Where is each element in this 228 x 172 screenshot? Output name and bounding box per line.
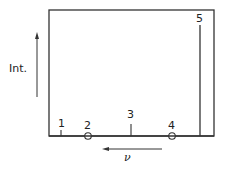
line-label-3: 3 <box>127 108 134 121</box>
frequency-arrow-icon <box>102 147 162 151</box>
x-axis-label: ν <box>124 151 131 164</box>
line-label-1: 1 <box>58 117 65 130</box>
line-label-4: 4 <box>168 119 175 132</box>
spectrum-diagram: Int. 1 2 3 4 5 ν <box>0 0 228 172</box>
intensity-arrow-icon <box>35 32 39 97</box>
line-label-5: 5 <box>196 12 203 25</box>
line-label-2: 2 <box>84 119 91 132</box>
y-axis-label: Int. <box>9 62 27 75</box>
